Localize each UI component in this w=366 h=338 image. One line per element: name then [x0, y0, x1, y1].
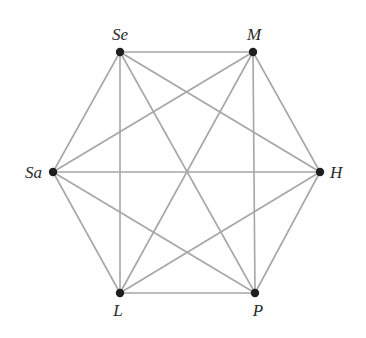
- node-m: [249, 48, 257, 56]
- node-se: [116, 48, 124, 56]
- node-p: [251, 289, 259, 297]
- edge-sa-p: [53, 172, 255, 293]
- edge-m-sa: [53, 52, 253, 172]
- node-h: [316, 168, 324, 176]
- edge-m-h: [253, 52, 320, 172]
- node-label-m: M: [246, 25, 262, 44]
- graph-diagram: SeMSaHLP: [0, 0, 366, 338]
- node-label-h: H: [329, 163, 344, 182]
- node-label-se: Se: [112, 25, 129, 44]
- node-l: [116, 289, 124, 297]
- edge-h-p: [255, 172, 320, 293]
- node-label-l: L: [112, 301, 122, 320]
- edges-group: [53, 52, 320, 293]
- edge-se-sa: [53, 52, 120, 172]
- node-label-sa: Sa: [25, 163, 42, 182]
- node-sa: [49, 168, 57, 176]
- edge-h-l: [120, 172, 320, 293]
- node-label-p: P: [252, 301, 263, 320]
- edge-sa-l: [53, 172, 120, 293]
